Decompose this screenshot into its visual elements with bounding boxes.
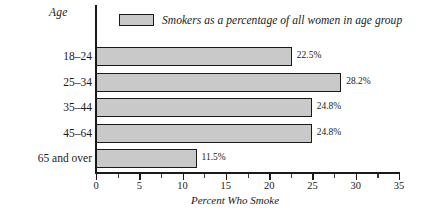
x-tick-label: 20 — [264, 180, 275, 191]
plot-area: 22.5%28.2%24.8%24.8%11.5% — [97, 45, 400, 173]
bar — [97, 149, 197, 168]
y-axis-caption: Age — [49, 6, 67, 18]
x-axis-title-text: Percent Who Smoke — [191, 194, 279, 206]
bar-row: 24.8% — [97, 98, 400, 117]
legend-swatch-icon — [119, 14, 154, 26]
category-labels: 18–2425–3435–4445–6465 and over — [0, 45, 92, 173]
bar — [97, 47, 292, 66]
category-label: 18–24 — [0, 50, 92, 62]
x-tick-label: 10 — [177, 180, 188, 191]
x-axis-title: Percent Who Smoke — [0, 194, 426, 206]
bar-value-label: 24.8% — [317, 127, 342, 137]
x-tick-minor — [118, 174, 119, 178]
chart-legend: Smokers as a percentage of all women in … — [119, 14, 402, 26]
bar-chart: Age Smokers as a percentage of all women… — [0, 0, 426, 213]
bar-row: 24.8% — [97, 124, 400, 143]
bar — [97, 73, 341, 92]
legend-label: Smokers as a percentage of all women in … — [162, 14, 402, 26]
bar-row: 22.5% — [97, 47, 400, 66]
x-tick-minor — [248, 174, 249, 178]
category-label: 45–64 — [0, 127, 92, 139]
x-tick-label: 15 — [221, 180, 232, 191]
x-tick-label: 35 — [394, 180, 405, 191]
x-tick-minor — [161, 174, 162, 178]
x-tick-minor — [377, 174, 378, 178]
x-tick-label: 25 — [307, 180, 318, 191]
bar-value-label: 24.8% — [317, 101, 342, 111]
category-label: 25–34 — [0, 76, 92, 88]
x-tick-label: 5 — [137, 180, 142, 191]
category-label: 65 and over — [0, 152, 92, 164]
bar-value-label: 11.5% — [202, 152, 226, 162]
x-tick-label: 0 — [93, 180, 98, 191]
bar — [97, 98, 312, 117]
bar-row: 11.5% — [97, 149, 400, 168]
x-tick-minor — [204, 174, 205, 178]
bar — [97, 124, 312, 143]
category-label: 35–44 — [0, 101, 92, 113]
x-tick-label: 30 — [350, 180, 361, 191]
bar-row: 28.2% — [97, 73, 400, 92]
bar-value-label: 22.5% — [297, 50, 322, 60]
x-tick-minor — [334, 174, 335, 178]
x-tick-minor — [291, 174, 292, 178]
bar-value-label: 28.2% — [346, 76, 371, 86]
